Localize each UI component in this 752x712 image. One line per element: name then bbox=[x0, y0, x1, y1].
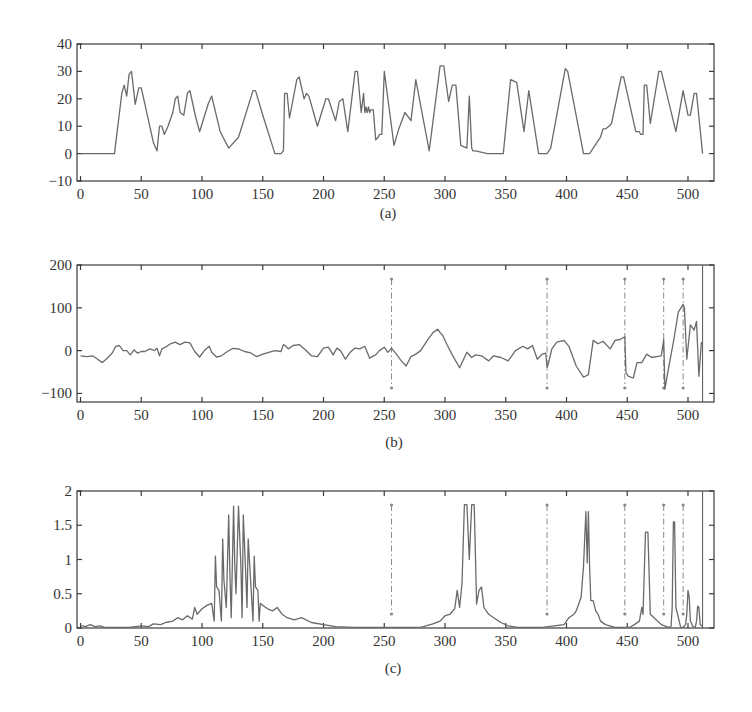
y-tick-label: −100 bbox=[41, 385, 72, 401]
panel-label-b: (b) bbox=[385, 434, 403, 451]
chart-panel-c: 05010015020025030035040045050000.511.52 … bbox=[53, 483, 714, 677]
x-tick-label: 200 bbox=[312, 407, 335, 423]
y-tick-label: 30 bbox=[57, 63, 72, 79]
x-tick-label: 300 bbox=[434, 186, 457, 202]
marker-dot bbox=[623, 503, 626, 506]
x-tick-label: 50 bbox=[134, 186, 149, 202]
y-tick-label: 0 bbox=[65, 343, 73, 359]
marker-dot bbox=[545, 386, 548, 389]
y-tick-label: 2 bbox=[65, 483, 73, 499]
y-tick-label: 40 bbox=[57, 36, 72, 52]
x-tick-label: 200 bbox=[312, 633, 335, 649]
vertical-markers bbox=[390, 265, 703, 402]
x-tick-label: 0 bbox=[77, 633, 85, 649]
x-tick-label: 500 bbox=[677, 407, 700, 423]
plot-frame bbox=[77, 491, 714, 628]
x-tick-label: 150 bbox=[252, 186, 275, 202]
y-tick-label: −10 bbox=[49, 173, 72, 189]
y-tick-label: 1.5 bbox=[53, 517, 72, 533]
y-tick-label: 1 bbox=[65, 552, 73, 568]
x-tick-label: 100 bbox=[191, 407, 214, 423]
figure: 050100150200250300350400450500−100102030… bbox=[0, 0, 752, 712]
axis-ticks: 050100150200250300350400450500−100010020… bbox=[41, 257, 714, 423]
x-tick-label: 250 bbox=[373, 186, 396, 202]
x-tick-label: 350 bbox=[495, 186, 518, 202]
marker-dot bbox=[682, 277, 685, 280]
x-tick-label: 500 bbox=[677, 633, 700, 649]
marker-dot bbox=[390, 612, 393, 615]
panel-label-a: (a) bbox=[380, 205, 397, 222]
marker-dot bbox=[390, 277, 393, 280]
x-tick-label: 250 bbox=[373, 407, 396, 423]
x-tick-label: 450 bbox=[616, 407, 639, 423]
x-tick-label: 500 bbox=[677, 186, 700, 202]
marker-dot bbox=[623, 612, 626, 615]
x-tick-label: 400 bbox=[555, 186, 578, 202]
x-tick-label: 50 bbox=[134, 407, 149, 423]
marker-dot bbox=[545, 277, 548, 280]
y-tick-label: 0 bbox=[65, 620, 73, 636]
y-tick-label: 0.5 bbox=[53, 586, 72, 602]
signal-line bbox=[81, 66, 703, 154]
marker-dot bbox=[662, 503, 665, 506]
x-tick-label: 250 bbox=[373, 633, 396, 649]
y-tick-label: 200 bbox=[50, 257, 73, 273]
panel-label-c: (c) bbox=[385, 660, 402, 677]
detail-line bbox=[81, 304, 702, 389]
plot-frame bbox=[77, 265, 714, 402]
marker-dot bbox=[662, 612, 665, 615]
x-tick-label: 450 bbox=[616, 633, 639, 649]
x-tick-label: 150 bbox=[252, 633, 275, 649]
x-tick-label: 0 bbox=[77, 407, 85, 423]
x-tick-label: 350 bbox=[495, 407, 518, 423]
x-tick-label: 50 bbox=[134, 633, 149, 649]
y-tick-label: 10 bbox=[57, 118, 72, 134]
marker-dot bbox=[545, 503, 548, 506]
chart-panel-b: 050100150200250300350400450500−100010020… bbox=[41, 257, 714, 451]
x-tick-label: 400 bbox=[555, 633, 578, 649]
marker-dot bbox=[390, 503, 393, 506]
x-tick-label: 450 bbox=[616, 186, 639, 202]
vertical-markers bbox=[390, 491, 703, 628]
x-tick-label: 400 bbox=[555, 407, 578, 423]
marker-dot bbox=[662, 277, 665, 280]
y-tick-label: 0 bbox=[65, 146, 73, 162]
x-tick-label: 350 bbox=[495, 633, 518, 649]
marker-dot bbox=[623, 386, 626, 389]
x-tick-label: 100 bbox=[191, 633, 214, 649]
x-tick-label: 150 bbox=[252, 407, 275, 423]
marker-dot bbox=[682, 503, 685, 506]
marker-dot bbox=[682, 612, 685, 615]
y-tick-label: 100 bbox=[50, 300, 73, 316]
marker-dot bbox=[390, 386, 393, 389]
x-tick-label: 0 bbox=[77, 186, 85, 202]
x-tick-label: 100 bbox=[191, 186, 214, 202]
chart-panel-a: 050100150200250300350400450500−100102030… bbox=[49, 36, 714, 222]
marker-dot bbox=[623, 277, 626, 280]
x-tick-label: 300 bbox=[434, 633, 457, 649]
y-tick-label: 20 bbox=[57, 91, 72, 107]
marker-dot bbox=[682, 386, 685, 389]
x-tick-label: 200 bbox=[312, 186, 335, 202]
x-tick-label: 300 bbox=[434, 407, 457, 423]
marker-dot bbox=[545, 612, 548, 615]
